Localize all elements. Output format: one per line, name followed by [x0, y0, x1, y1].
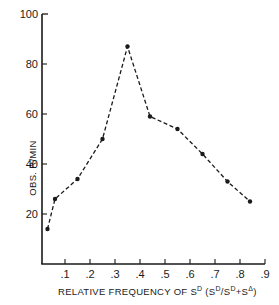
x-tick-label: .9 [260, 268, 269, 280]
data-series [45, 44, 252, 231]
y-tick-label: 20 [26, 208, 38, 220]
data-point [148, 114, 152, 118]
x-tick-label: .6 [185, 268, 194, 280]
data-point [75, 177, 79, 181]
x-tick-label: .3 [110, 268, 119, 280]
data-point [125, 44, 129, 48]
y-axis-title: OBS. R/MIN [27, 140, 38, 195]
y-tick-label: 100 [20, 8, 38, 20]
y-tick-label: 60 [26, 108, 38, 120]
series-line [48, 47, 251, 230]
data-point [100, 137, 104, 141]
x-tick-label: .2 [85, 268, 94, 280]
x-tick-label: .1 [60, 268, 69, 280]
x-tick-label: .5 [160, 268, 169, 280]
data-point [200, 152, 204, 156]
x-axis-ticks: .1.2.3.4.5.6.7.8.9 [60, 259, 269, 280]
y-tick-label: 80 [26, 58, 38, 70]
data-point [53, 197, 57, 201]
data-point [175, 127, 179, 131]
data-point [248, 199, 252, 203]
axes [41, 14, 265, 264]
x-tick-label: .7 [210, 268, 219, 280]
data-point [45, 227, 49, 231]
data-point [225, 179, 229, 183]
x-tick-label: .8 [235, 268, 244, 280]
x-axis-title: RELATIVE FREQUENCY OF SD (SD/SD+SΔ) [58, 285, 257, 297]
line-chart: 20406080100 .1.2.3.4.5.6.7.8.9 OBS. R/MI… [0, 0, 279, 305]
x-tick-label: .4 [135, 268, 144, 280]
